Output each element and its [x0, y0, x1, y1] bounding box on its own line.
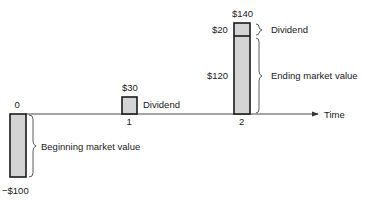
annotation-dividend-1: Dividend	[143, 99, 180, 110]
brace-ending	[256, 38, 262, 113]
part-label-dividend: $20	[212, 24, 228, 35]
annotation-beginning-market-value: Beginning market value	[41, 141, 140, 152]
flow-label-1: $30	[122, 82, 138, 93]
brace-beginning	[29, 115, 36, 177]
bar-period-1	[122, 97, 137, 114]
tick-label-1: 1	[127, 116, 132, 127]
annotation-ending-market-value: Ending market value	[271, 70, 358, 81]
flow-label-0: −$100	[2, 185, 29, 196]
axis-label-time: Time	[324, 109, 345, 120]
flow-label-2: $140	[232, 8, 253, 19]
tick-label-0: 0	[15, 99, 20, 110]
brace-dividend-2	[256, 24, 262, 35]
annotation-dividend-2: Dividend	[271, 24, 308, 35]
cash-flow-diagram: Time 0 −$100 Beginning market value $30 …	[0, 0, 365, 200]
part-label-ending: $120	[207, 70, 228, 81]
tick-label-2: 2	[239, 116, 244, 127]
bar-period-0	[10, 114, 26, 177]
